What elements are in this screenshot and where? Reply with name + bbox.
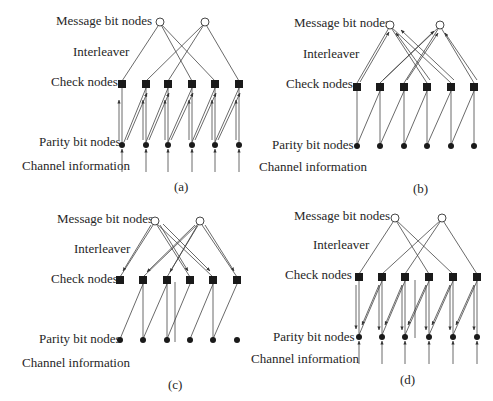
message-bit-node — [391, 214, 399, 222]
parity-bit-node — [448, 143, 454, 149]
parity-bit-node — [119, 142, 125, 148]
panel-a-graph — [119, 23, 240, 172]
check-node — [400, 83, 408, 91]
check-node — [164, 80, 172, 88]
parity-bit-node — [236, 142, 242, 148]
parity-bit-node — [117, 337, 123, 343]
check-node — [473, 273, 481, 281]
parity-bit-node — [424, 143, 430, 149]
check-node — [425, 273, 433, 281]
panel-b-nodes — [353, 21, 478, 149]
check-node — [142, 80, 150, 88]
parity-bit-node — [379, 334, 385, 340]
parity-bit-node — [189, 142, 195, 148]
check-node — [118, 80, 126, 88]
panel-d-nodes — [355, 214, 481, 340]
message-bit-node — [438, 214, 446, 222]
parity-bit-node — [354, 143, 360, 149]
parity-bit-node — [450, 334, 456, 340]
parity-bit-node — [402, 334, 408, 340]
parity-bit-node — [210, 337, 216, 343]
parity-bit-node — [143, 142, 149, 148]
check-node — [211, 80, 219, 88]
check-node — [139, 276, 147, 284]
panel-d-graph — [356, 219, 477, 364]
panel-c-nodes — [116, 217, 241, 343]
panel-b-graph — [357, 26, 477, 145]
parity-bit-node — [234, 337, 240, 343]
message-bit-node — [151, 217, 159, 225]
message-bit-node — [436, 21, 444, 29]
check-node — [188, 80, 196, 88]
check-node — [116, 276, 124, 284]
parity-bit-node — [140, 337, 146, 343]
parity-bit-node — [212, 142, 218, 148]
message-bit-node — [196, 217, 204, 225]
message-bit-node — [156, 18, 164, 26]
check-node — [447, 83, 455, 91]
check-node — [378, 273, 386, 281]
parity-bit-node — [165, 142, 171, 148]
check-node — [376, 83, 384, 91]
parity-bit-node — [187, 337, 193, 343]
message-bit-node — [386, 21, 394, 29]
check-node — [209, 276, 217, 284]
parity-bit-node — [471, 143, 477, 149]
check-node — [186, 276, 194, 284]
parity-bit-node — [426, 334, 432, 340]
message-bit-node — [201, 18, 209, 26]
parity-bit-node — [356, 334, 362, 340]
diagram-graphics — [0, 0, 493, 401]
check-node — [163, 276, 171, 284]
parity-bit-node — [377, 143, 383, 149]
check-node — [470, 83, 478, 91]
check-node — [355, 273, 363, 281]
parity-bit-node — [474, 334, 480, 340]
check-node — [353, 83, 361, 91]
check-node — [235, 80, 243, 88]
parity-bit-node — [401, 143, 407, 149]
check-node — [401, 273, 409, 281]
check-node — [423, 83, 431, 91]
panel-c-graph — [120, 222, 237, 342]
parity-bit-node — [164, 337, 170, 343]
check-node — [449, 273, 457, 281]
panel-a-nodes — [118, 18, 243, 148]
check-node — [233, 276, 241, 284]
